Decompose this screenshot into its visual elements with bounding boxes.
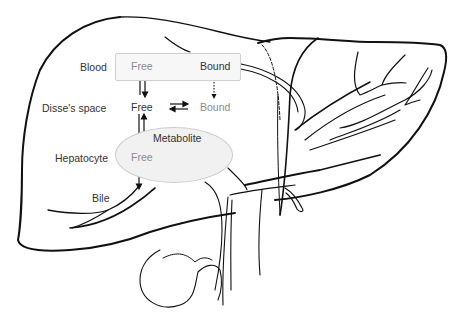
label-disse-space: Disse's space xyxy=(42,103,106,114)
label-blood: Blood xyxy=(80,62,107,73)
label-bile: Bile xyxy=(92,193,110,204)
node-blood-bound: Bound xyxy=(200,61,230,72)
node-disse-bound: Bound xyxy=(200,102,230,113)
liver-outline-top xyxy=(120,17,270,42)
label-hepatocyte: Hepatocyte xyxy=(55,153,108,164)
node-disse-free: Free xyxy=(131,102,153,113)
node-metabolite: Metabolite xyxy=(153,133,201,144)
node-hepatocyte-free: Free xyxy=(131,152,153,163)
node-blood-free: Free xyxy=(131,61,153,72)
